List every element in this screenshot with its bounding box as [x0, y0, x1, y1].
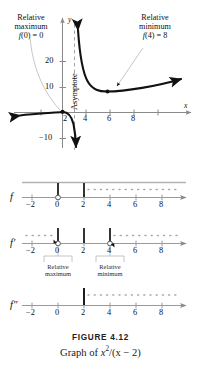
y-axis — [60, 18, 67, 148]
x-axis-label: x — [184, 102, 187, 111]
figure-caption-subtitle: Graph of x2/(x − 2) — [0, 345, 201, 358]
caption-func-rest: /(x − 2) — [109, 347, 141, 358]
asymptote-label: Asymptote — [70, 73, 79, 110]
annotation-relative-minimum-line3: f(4) = 8 — [124, 31, 186, 40]
figure-caption-title: FIGURE 4.12 — [0, 333, 201, 342]
fprime-tick-0: 0 — [55, 246, 59, 255]
f-tick--2: −2 — [26, 200, 35, 209]
numberline-fdoubleprime — [22, 288, 186, 308]
numberline-fprime — [22, 228, 186, 262]
x-tick-2: 2 — [63, 114, 67, 123]
f-tick-8: 8 — [159, 200, 163, 209]
y-axis-label: y — [68, 16, 71, 25]
annotation-relative-minimum-line1: Relative — [124, 13, 186, 22]
fdp-tick-2: 2 — [81, 308, 85, 317]
fprime-tick--2: −2 — [26, 246, 35, 255]
f-tick-6: 6 — [133, 200, 137, 209]
leader-relative-maximum — [30, 38, 60, 110]
annotation-relative-maximum-line2: maximum — [2, 22, 60, 31]
fdp-tick-6: 6 — [133, 308, 137, 317]
fdp-tick-8: 8 — [159, 308, 163, 317]
fprime-tick-8: 8 — [159, 246, 163, 255]
callout-relative-maximum-line2: maximum — [30, 270, 86, 277]
f-tick-4: 4 — [107, 200, 111, 209]
fprime-tick-4: 4 — [107, 246, 111, 255]
numberline-f — [22, 183, 186, 201]
fdp-tick-0: 0 — [55, 308, 59, 317]
numberline-f-name: f — [10, 191, 13, 203]
x-tick-4: 4 — [83, 114, 87, 123]
callout-relative-maximum-line1: Relative — [30, 263, 86, 270]
x-tick-8: 8 — [131, 114, 135, 123]
annotation-relative-maximum-line3: f(0) = 0 — [2, 31, 60, 40]
f-tick-2: 2 — [81, 200, 85, 209]
numberline-fdoubleprime-name: f″ — [10, 299, 17, 311]
y-tick-20: 20 — [45, 56, 53, 65]
fprime-tick-2: 2 — [81, 246, 85, 255]
y-tick-10: 10 — [45, 82, 53, 91]
fprime-tick-6: 6 — [133, 246, 137, 255]
annotation-relative-maximum: Relative maximum f(0) = 0 — [2, 13, 60, 41]
figure-container: Relative maximum f(0) = 0 Relative minim… — [0, 0, 201, 370]
callout-relative-minimum: Relative minimum — [82, 263, 138, 277]
y-tick-neg10: −10 — [39, 133, 52, 142]
annotation-relative-minimum-line2: minimum — [124, 22, 186, 31]
point-relative-minimum — [105, 89, 109, 93]
x-tick-6: 6 — [107, 114, 111, 123]
callout-relative-maximum: Relative maximum — [30, 263, 86, 277]
fdp-tick--2: −2 — [26, 308, 35, 317]
callout-relative-minimum-line1: Relative — [82, 263, 138, 270]
fdp-tick-4: 4 — [107, 308, 111, 317]
caption-prefix: Graph of — [60, 347, 101, 358]
annotation-relative-maximum-line1: Relative — [2, 13, 60, 22]
annotation-relative-minimum: Relative minimum f(4) = 8 — [124, 13, 186, 41]
callout-relative-minimum-line2: minimum — [82, 270, 138, 277]
leader-relative-minimum — [117, 48, 143, 86]
f-tick-0: 0 — [55, 200, 59, 209]
numberline-fprime-name: f′ — [10, 237, 15, 249]
